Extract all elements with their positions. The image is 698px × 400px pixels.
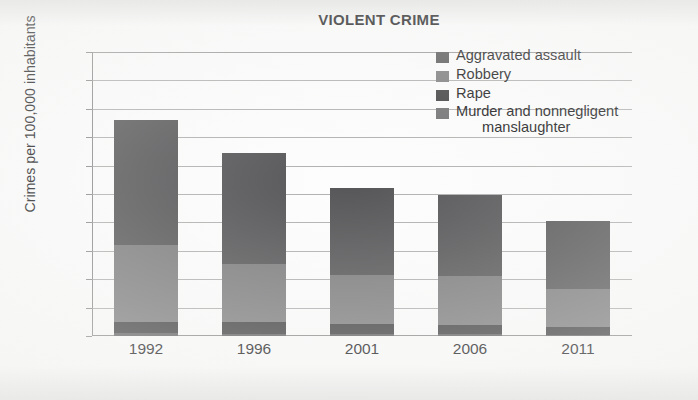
legend-swatch-aggravated-assault-icon	[436, 52, 449, 63]
legend-swatch-murder-icon	[436, 108, 449, 119]
y-axis-title: Crimes per 100,000 inhabitants	[22, 0, 38, 254]
legend-item-label: Rape	[456, 86, 491, 102]
chart-title: VIOLENT CRIME	[0, 11, 698, 28]
legend-item-label-line2: manslaughter	[456, 120, 618, 136]
y-axis-tick	[86, 336, 92, 337]
legend-swatch-rape-icon	[436, 90, 449, 101]
x-axis-tick-label: 1996	[237, 340, 271, 358]
legend-item[interactable]: Aggravated assault	[436, 48, 618, 64]
legend-item-label: Aggravated assault	[456, 48, 581, 64]
x-axis-tick-label: 2001	[345, 340, 379, 358]
x-axis-tick-label: 1992	[129, 340, 163, 358]
legend-item[interactable]: Murder and nonnegligentmanslaughter	[436, 104, 618, 136]
x-axis-tick-label: 2006	[453, 340, 487, 358]
legend-item-label: Robbery	[456, 67, 511, 83]
legend-item-label: Murder and nonnegligentmanslaughter	[456, 104, 618, 136]
x-axis-tick-label: 2011	[561, 340, 594, 358]
chart-page: VIOLENT CRIME Crimes per 100,000 inhabit…	[0, 0, 698, 400]
legend-item[interactable]: Robbery	[436, 67, 618, 83]
legend-item[interactable]: Rape	[436, 86, 618, 102]
scan-artifact-bottom	[0, 366, 698, 400]
x-axis-tick-labels: 19921996200120062011	[92, 340, 632, 366]
chart-legend: Aggravated assaultRobberyRapeMurder and …	[436, 48, 618, 139]
legend-swatch-robbery-icon	[436, 71, 449, 82]
